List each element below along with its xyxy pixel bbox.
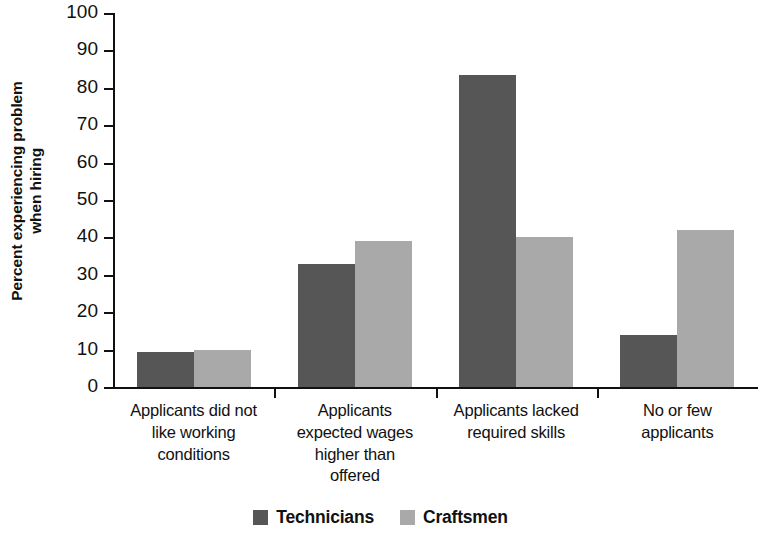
bar-technicians-3 — [620, 335, 677, 387]
y-tick-label: 70 — [77, 114, 98, 133]
y-tick: 10 — [104, 350, 113, 352]
legend-swatch-icon — [400, 510, 415, 525]
bar-craftsmen-2 — [516, 237, 573, 387]
y-tick: 60 — [104, 163, 113, 165]
y-tick: 70 — [104, 125, 113, 127]
y-tick-label: 0 — [87, 376, 98, 395]
y-tick: 0 — [104, 387, 113, 389]
bar-craftsmen-3 — [677, 230, 734, 387]
category-label-0: Applicants did not like working conditio… — [105, 400, 282, 465]
y-tick: 50 — [104, 200, 113, 202]
bar-craftsmen-0 — [194, 350, 251, 387]
y-tick-label: 20 — [77, 301, 98, 320]
x-tick — [436, 387, 438, 398]
y-axis-line — [113, 13, 115, 387]
category-label-3: No or few applicants — [589, 400, 761, 444]
x-tick — [597, 387, 599, 398]
y-tick-label: 10 — [77, 339, 98, 358]
bar-chart: Percent experiencing problem when hiring… — [0, 0, 761, 541]
legend-swatch-icon — [253, 510, 268, 525]
y-tick: 30 — [104, 275, 113, 277]
legend-label: Craftsmen — [423, 509, 508, 527]
y-tick-label: 100 — [66, 2, 98, 21]
legend-item-technicians[interactable]: Technicians — [253, 509, 374, 527]
chart-legend: TechniciansCraftsmen — [0, 509, 761, 527]
y-tick-label: 50 — [77, 189, 98, 208]
plot-area: 1009080706050403020100 — [113, 13, 758, 387]
y-tick: 100 — [104, 13, 113, 15]
bar-technicians-2 — [459, 75, 516, 387]
y-tick-label: 40 — [77, 226, 98, 245]
x-tick — [274, 387, 276, 398]
legend-label: Technicians — [276, 509, 374, 527]
y-tick: 90 — [104, 50, 113, 52]
y-tick-label: 80 — [77, 77, 98, 96]
bar-craftsmen-1 — [355, 241, 412, 387]
category-label-1: Applicants expected wages higher than of… — [266, 400, 443, 487]
y-tick: 80 — [104, 88, 113, 90]
category-label-2: Applicants lacked required skills — [428, 400, 605, 444]
y-tick: 20 — [104, 312, 113, 314]
y-tick-label: 30 — [77, 264, 98, 283]
y-tick-label: 90 — [77, 39, 98, 58]
y-tick: 40 — [104, 237, 113, 239]
y-axis-title: Percent experiencing problem when hiring — [8, 26, 46, 356]
bar-technicians-1 — [298, 264, 355, 387]
legend-item-craftsmen[interactable]: Craftsmen — [400, 509, 508, 527]
bar-technicians-0 — [137, 352, 194, 387]
y-tick-label: 60 — [77, 152, 98, 171]
